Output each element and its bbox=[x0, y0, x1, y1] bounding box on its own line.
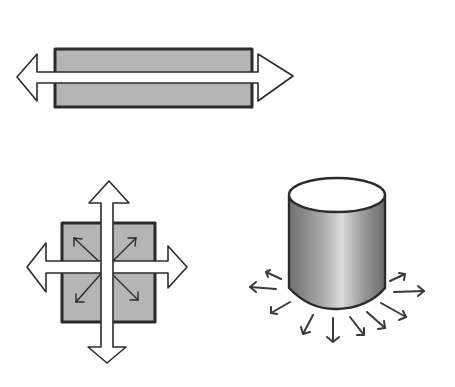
cylinder-figure bbox=[250, 178, 424, 342]
bar-figure bbox=[17, 49, 293, 107]
diagram-canvas bbox=[0, 0, 455, 387]
square-figure bbox=[27, 181, 187, 363]
cylinder-top bbox=[289, 178, 385, 212]
